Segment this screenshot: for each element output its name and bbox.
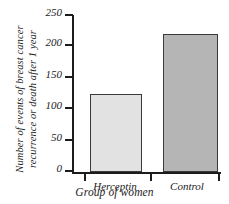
y-axis-title-line-1: Number of events of breast cancer [14, 25, 27, 172]
x-tick-middle [150, 172, 152, 181]
y-tick-label-200: 200 [46, 37, 63, 48]
plot-area: 0 50 100 150 200 250 Herceptin [72, 15, 221, 172]
y-tick-200: 200 [65, 44, 73, 46]
y-tick-50: 50 [65, 139, 73, 141]
bar-control [163, 34, 218, 172]
y-tick-label-150: 150 [46, 69, 63, 80]
bar-chart: Number of events of breast cancer recurr… [0, 0, 229, 204]
y-tick-100: 100 [65, 107, 73, 109]
x-axis-title: Group of women [0, 187, 229, 199]
y-tick-250: 250 [65, 14, 73, 16]
y-tick-150: 150 [65, 76, 73, 78]
x-tick-left [84, 172, 86, 181]
y-tick-0: 0 [65, 170, 73, 172]
y-axis-line [72, 15, 74, 172]
y-tick-label-100: 100 [46, 100, 63, 111]
y-axis-title: Number of events of breast cancer recurr… [12, 11, 42, 187]
y-tick-label-50: 50 [51, 132, 62, 143]
y-axis-title-line-2: recurrence or death after 1 year [27, 30, 40, 168]
x-axis-line [72, 172, 221, 174]
y-tick-label-0: 0 [57, 163, 63, 174]
y-tick-label-250: 250 [46, 7, 63, 18]
bar-herceptin [90, 94, 142, 173]
x-tick-right [218, 172, 220, 181]
